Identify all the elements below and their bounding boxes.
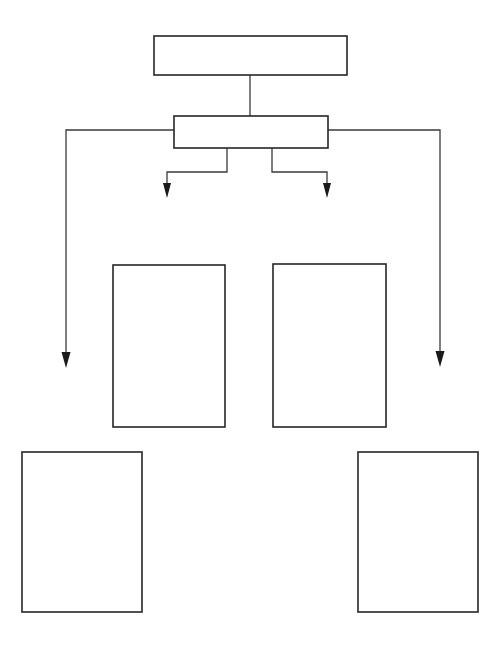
bottom-right-box-outline[interactable] bbox=[358, 452, 478, 612]
bottom-left-box-outline[interactable] bbox=[22, 452, 142, 612]
middle-right-box[interactable] bbox=[273, 264, 386, 427]
bottom-left-box[interactable] bbox=[22, 452, 142, 612]
diagram-canvas bbox=[0, 0, 499, 655]
middle-left-box-outline[interactable] bbox=[113, 265, 225, 427]
middle-left-box[interactable] bbox=[113, 265, 225, 427]
flowchart-svg bbox=[0, 0, 499, 655]
top-box-outline[interactable] bbox=[154, 36, 347, 75]
bottom-right-box[interactable] bbox=[358, 452, 478, 612]
second-box[interactable] bbox=[174, 116, 328, 148]
top-box[interactable] bbox=[154, 36, 347, 75]
second-box-outline[interactable] bbox=[174, 116, 328, 148]
middle-right-box-outline[interactable] bbox=[273, 264, 386, 427]
